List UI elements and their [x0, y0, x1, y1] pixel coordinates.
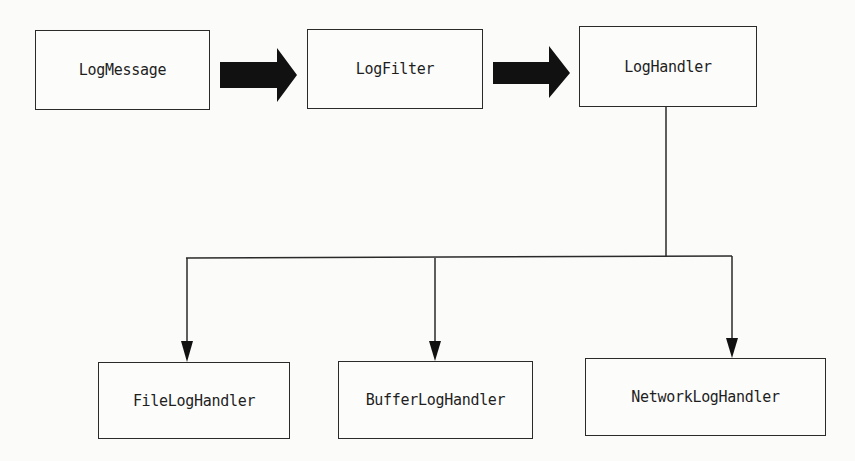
node-log-handler: LogHandler [579, 26, 757, 107]
node-label: BufferLogHandler [366, 391, 506, 409]
node-label: NetworkLogHandler [631, 388, 779, 406]
node-network-log-handler: NetworkLogHandler [585, 358, 826, 436]
node-log-filter: LogFilter [307, 29, 483, 109]
node-label: FileLogHandler [133, 392, 255, 410]
tree-connectors [186, 106, 732, 343]
block-arrow-icon [220, 48, 297, 102]
arrowhead-down-icon [429, 341, 441, 361]
node-buffer-log-handler: BufferLogHandler [338, 361, 533, 439]
node-file-log-handler: FileLogHandler [98, 362, 290, 439]
node-label: LogHandler [624, 58, 711, 76]
arrowhead-down-icon [726, 338, 738, 358]
node-label: LogMessage [79, 61, 166, 79]
node-label: LogFilter [356, 60, 435, 78]
node-log-message: LogMessage [35, 30, 210, 110]
block-arrow-icon [493, 46, 570, 98]
arrowhead-down-icon [181, 341, 193, 362]
